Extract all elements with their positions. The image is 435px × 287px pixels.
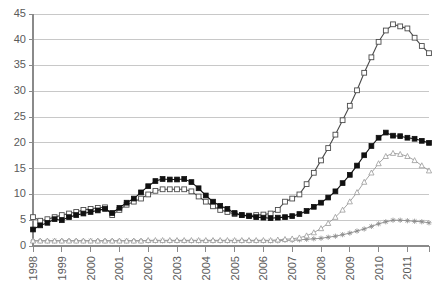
svg-text:40: 40 bbox=[14, 33, 26, 45]
svg-text:15: 15 bbox=[14, 162, 26, 174]
svg-text:2010: 2010 bbox=[373, 256, 385, 280]
y-axis bbox=[29, 14, 33, 246]
svg-text:2007: 2007 bbox=[286, 256, 298, 280]
x-axis bbox=[33, 246, 429, 252]
svg-text:2008: 2008 bbox=[315, 256, 327, 280]
svg-text:2004: 2004 bbox=[200, 256, 212, 280]
svg-text:1999: 1999 bbox=[56, 256, 68, 280]
svg-text:20: 20 bbox=[14, 136, 26, 148]
svg-text:2001: 2001 bbox=[113, 256, 125, 280]
data-series-group bbox=[30, 22, 431, 244]
svg-text:0: 0 bbox=[20, 239, 26, 251]
series-filled-square bbox=[31, 130, 432, 232]
line-chart: 051015202530354045 199819992000200120022… bbox=[0, 0, 435, 287]
series-open-square bbox=[31, 22, 432, 223]
svg-text:2000: 2000 bbox=[85, 256, 97, 280]
svg-text:2003: 2003 bbox=[171, 256, 183, 280]
y-axis-tick-labels: 051015202530354045 bbox=[14, 7, 26, 251]
chart-container: 051015202530354045 199819992000200120022… bbox=[0, 0, 435, 287]
svg-text:2006: 2006 bbox=[257, 256, 269, 280]
svg-text:30: 30 bbox=[14, 84, 26, 96]
svg-text:2011: 2011 bbox=[401, 256, 413, 280]
x-axis-tick-labels: 1998199920002001200220032004200520062007… bbox=[27, 256, 413, 280]
svg-text:10: 10 bbox=[14, 187, 26, 199]
svg-text:5: 5 bbox=[20, 213, 26, 225]
svg-text:2009: 2009 bbox=[344, 256, 356, 280]
svg-text:35: 35 bbox=[14, 58, 26, 70]
svg-text:2002: 2002 bbox=[142, 256, 154, 280]
series-open-triangle bbox=[30, 150, 431, 243]
svg-text:1998: 1998 bbox=[27, 256, 39, 280]
svg-text:25: 25 bbox=[14, 110, 26, 122]
svg-text:2005: 2005 bbox=[229, 256, 241, 280]
svg-text:45: 45 bbox=[14, 7, 26, 19]
